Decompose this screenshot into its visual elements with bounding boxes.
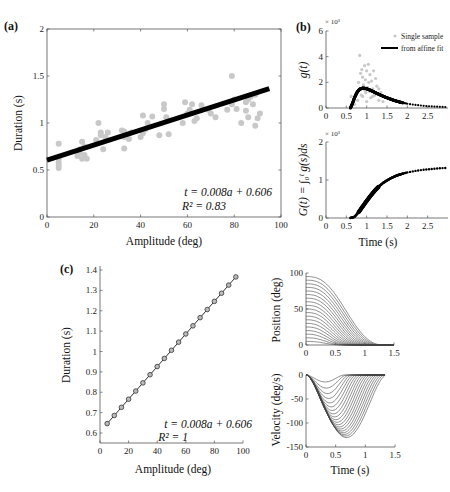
panel-b-top-y-ticks: 0246	[319, 26, 329, 113]
y-tick-label: 1.1	[86, 326, 97, 336]
data-point	[365, 69, 368, 72]
x-tick-label: 1	[363, 450, 368, 460]
data-point	[363, 64, 366, 67]
x-tick-label: 2	[405, 111, 410, 121]
y-tick-label: 100	[290, 268, 304, 278]
y-tick-label: 0	[319, 103, 324, 113]
data-point	[100, 146, 106, 152]
x-tick-label: 60	[181, 446, 191, 456]
x-tick-label: 0	[45, 220, 50, 230]
x-tick-label: 1	[364, 111, 369, 121]
y-tick-label: 4	[319, 52, 324, 62]
data-point	[365, 100, 368, 103]
x-tick-label: 40	[153, 446, 163, 456]
data-point	[112, 413, 117, 418]
panel-b-top-y-label: g(t)	[297, 62, 310, 79]
data-point	[362, 83, 365, 86]
x-tick-label: 0	[324, 221, 329, 231]
x-tick-label: 2.5	[422, 111, 434, 121]
x-tick-label: 40	[136, 220, 146, 230]
panel-c-line	[105, 275, 238, 426]
data-point	[148, 372, 153, 377]
data-point	[361, 95, 364, 98]
figure: (a) 00.511.52 020406080100 Amplitude (de…	[0, 0, 450, 492]
data-point	[359, 72, 362, 75]
data-point	[364, 78, 367, 81]
panel-c-equation: t = 0.008a + 0.606	[164, 418, 252, 430]
y-tick-label: -100	[287, 418, 304, 428]
y-tick-label: -150	[287, 442, 304, 452]
y-tick-label: 0.8	[86, 387, 98, 397]
data-point	[360, 68, 363, 71]
panel-b-x-label: Time (s)	[359, 236, 398, 249]
y-tick-label: 0.5	[33, 165, 45, 175]
x-tick-label: 1	[364, 221, 369, 231]
data-point	[245, 114, 251, 120]
panel-b-bottom-curve	[349, 167, 446, 219]
data-point	[212, 114, 218, 120]
panel-c-label: (c)	[60, 262, 73, 276]
y-tick-label: 2	[319, 137, 324, 147]
data-point	[205, 307, 210, 312]
x-tick-label: 0.5	[341, 111, 353, 121]
x-tick-label: 1.5	[388, 348, 400, 358]
data-point	[189, 101, 195, 107]
velocity-curves	[306, 375, 385, 438]
data-point	[166, 131, 172, 137]
panel-b-bottom-y-ticks: 012	[319, 137, 329, 223]
panel-a-fit-line	[47, 89, 269, 160]
data-point	[194, 115, 200, 121]
data-point	[370, 79, 373, 82]
data-point	[126, 397, 131, 402]
x-tick-label: 1.5	[389, 450, 401, 460]
y-tick-label: 1	[40, 118, 45, 128]
panel-a-equation: t = 0.008a + 0.606	[184, 186, 272, 198]
data-point	[176, 340, 181, 345]
x-tick-label: 1.5	[381, 221, 393, 231]
data-point	[377, 99, 380, 102]
data-point	[84, 156, 90, 162]
data-point	[357, 81, 360, 84]
data-point	[243, 108, 249, 114]
panel-c: (c) 0.60.70.80.911.11.21.31.4 0204060801…	[60, 262, 252, 476]
data-point	[212, 299, 217, 304]
panel-a-y-label: Duration (s)	[12, 95, 25, 151]
data-point	[180, 120, 186, 126]
panel-b-bottom-y-label: G(t) = ∫₀ᵗ g(s)ds	[297, 143, 310, 216]
data-point	[149, 113, 155, 119]
data-point	[226, 283, 231, 288]
panel-c-r-squared: R² = 1	[157, 431, 188, 443]
data-point	[367, 63, 370, 66]
x-tick-label: 0.5	[330, 450, 342, 460]
data-point	[367, 81, 370, 84]
data-point	[133, 389, 138, 394]
x-tick-label: 0	[98, 446, 103, 456]
position-plot: 050100 00.511.5 Position (deg)	[270, 268, 400, 358]
panel-a: (a) 00.511.52 020406080100 Amplitude (de…	[4, 19, 288, 248]
data-point	[119, 405, 124, 410]
panel-a-label: (a)	[4, 19, 18, 33]
data-point	[162, 356, 167, 361]
panel-a-x-ticks: 020406080100	[45, 29, 289, 230]
x-tick-label: 20	[124, 446, 134, 456]
panel-a-r-squared: R² = 0.83	[181, 200, 226, 212]
data-point	[161, 106, 167, 112]
x-tick-label: 0	[324, 111, 329, 121]
data-point	[356, 99, 359, 102]
y-tick-label: -50	[291, 394, 303, 404]
x-tick-label: 60	[183, 220, 193, 230]
data-point	[250, 101, 256, 107]
data-point	[182, 99, 188, 105]
data-point	[252, 123, 258, 129]
position-curves	[306, 277, 394, 345]
x-tick-label: 2.5	[422, 221, 434, 231]
data-point	[105, 421, 110, 426]
data-point	[141, 381, 146, 386]
data-point	[374, 77, 377, 80]
legend-single-sample: Single sample	[401, 32, 444, 41]
legend-marker-single-sample	[393, 34, 396, 37]
data-point	[350, 95, 353, 98]
panel-b-top: (b) × 10³ 0246 00.511.522.5 g(t) Single …	[296, 18, 448, 121]
velocity-y-label: Velocity (deg/s)	[270, 373, 283, 446]
data-point	[56, 141, 62, 147]
